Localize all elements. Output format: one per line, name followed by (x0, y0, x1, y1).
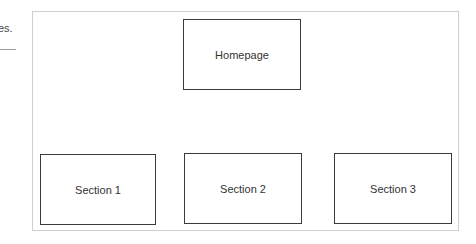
divider-line (0, 49, 16, 50)
homepage-node: Homepage (183, 19, 301, 90)
section-1-label: Section 1 (75, 184, 121, 196)
homepage-label: Homepage (215, 49, 269, 61)
section-1-node: Section 1 (40, 154, 156, 225)
section-3-node: Section 3 (334, 153, 452, 224)
section-2-node: Section 2 (184, 153, 302, 224)
truncated-text-fragment: es. (0, 22, 13, 34)
section-2-label: Section 2 (220, 183, 266, 195)
section-3-label: Section 3 (370, 183, 416, 195)
